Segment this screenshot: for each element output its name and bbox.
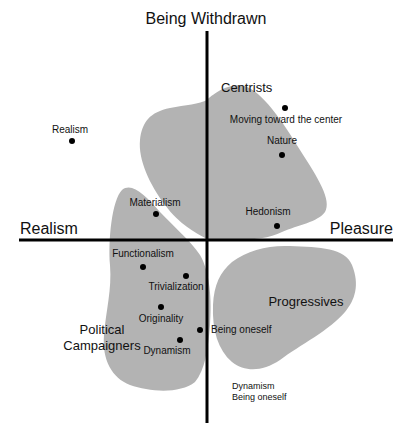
point-label-hedonism: Hedonism [245, 206, 290, 217]
point-label-originality: Originality [139, 313, 183, 324]
note-line-being-oneself: Being oneself [232, 392, 287, 402]
point-moving-toward-center [282, 105, 288, 111]
point-originality [158, 304, 164, 310]
point-trivialization [183, 273, 189, 279]
point-label-dynamism: Dynamism [143, 345, 190, 356]
axis-label-right: Pleasure [330, 220, 393, 237]
group-label-political-line1: Political [80, 322, 125, 337]
point-label-functionalism: Functionalism [112, 248, 174, 259]
axis-label-top: Being Withdrawn [146, 10, 267, 27]
point-label-moving-toward-center: Moving toward the center [230, 114, 343, 125]
centrists-region [140, 85, 327, 240]
axis-label-left: Realism [20, 220, 78, 237]
group-label-centrists: Centrists [221, 80, 273, 95]
point-realism [69, 138, 75, 144]
group-label-political-line2: Campaigners [63, 338, 141, 353]
diagram-canvas: Being Withdrawn Realism Pleasure Centris… [0, 0, 402, 430]
group-label-progressives: Progressives [268, 294, 344, 309]
point-functionalism [140, 264, 146, 270]
point-label-being-oneself: Being oneself [211, 324, 272, 335]
point-hedonism [274, 223, 280, 229]
point-label-nature: Nature [267, 135, 297, 146]
point-label-materialism: Materialism [129, 197, 180, 208]
point-being-oneself [197, 327, 203, 333]
point-label-realism: Realism [52, 124, 88, 135]
point-dynamism [177, 337, 183, 343]
quadrant-diagram: Being Withdrawn Realism Pleasure Centris… [0, 0, 402, 430]
point-label-trivialization: Trivialization [148, 281, 203, 292]
point-materialism [153, 211, 159, 217]
note-line-dynamism: Dynamism [232, 381, 275, 391]
point-nature [279, 152, 285, 158]
